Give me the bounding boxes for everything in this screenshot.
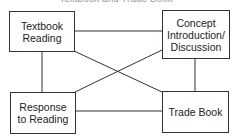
node-trade-book: Trade Book xyxy=(162,91,229,133)
node-label-line: Textbook xyxy=(21,20,63,32)
node-concept-introduction: Concept Introduction/ Discussion xyxy=(162,10,230,59)
node-label-line: Concept xyxy=(167,17,225,29)
node-response-to-reading: Response to Reading xyxy=(10,92,76,134)
node-textbook-reading: Textbook Reading xyxy=(9,11,75,52)
node-label-line: Trade Book xyxy=(169,106,223,118)
node-label-line: Introduction/ xyxy=(167,29,225,41)
node-label-line: Discussion xyxy=(167,41,225,53)
node-label-line: Response xyxy=(18,101,69,113)
node-label-line: Reading xyxy=(21,32,63,44)
node-label-line: to Reading xyxy=(18,113,69,125)
